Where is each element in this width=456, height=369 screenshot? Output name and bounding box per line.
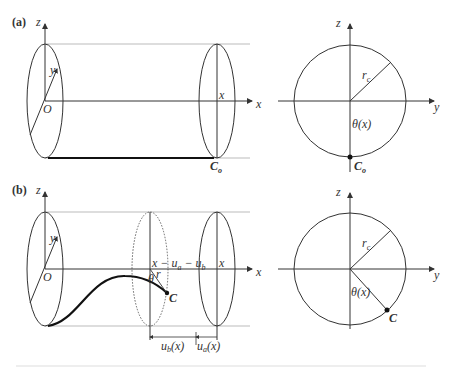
x-axis-label: x [255,97,262,111]
panel-b: (b) z x x − ua − ub x y O r θ C ub(x) ua… [12,183,440,354]
dimension-ua-label: ua(x) [197,339,220,354]
cs-y-label: y [433,268,440,282]
z-axis-label: z [35,15,41,29]
radius-line [350,62,391,101]
angle-label: θ(x) [352,117,371,131]
y-axis-label: y [49,63,56,77]
cross-section-a: z y rc θ(x) Co [278,16,440,175]
x-axis-label: x [255,265,262,279]
point-c-label: C [169,291,178,305]
cs-y-label: y [433,100,440,114]
radius-r-label: r [156,267,161,281]
figure-canvas: (a) z x x y O Co z y rc θ(x) C [0,0,456,369]
point-c0-label: Co [210,159,222,175]
point-c0-dot [348,155,353,160]
theta-label: θ [148,272,154,286]
cs-z-label: z [335,16,341,30]
cs-point-label: Co [354,159,366,175]
cross-section-b: z y rc θ(x) C [278,185,440,329]
radius-label: rc [362,68,371,84]
panel-a: (a) z x x y O Co z y rc θ(x) C [12,15,440,175]
caption-strip [16,365,426,367]
section-label: x [218,256,225,270]
section-label: x [218,88,225,102]
cs-point-label: C [389,311,398,325]
origin-label: O [43,102,52,116]
radius-label: rc [362,236,371,252]
z-axis-label: z [35,183,41,197]
y-axis-label: y [49,231,56,245]
dimension-ub-label: ub(x) [161,339,184,354]
panel-b-label: (b) [12,183,27,197]
cs-z-label: z [335,185,341,199]
radius-line [350,230,391,269]
angle-label: θ(x) [351,285,370,299]
panel-a-label: (a) [12,15,26,29]
origin-label: O [43,270,52,284]
